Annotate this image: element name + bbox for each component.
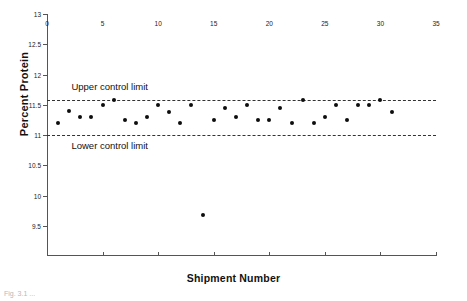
x-axis-title: Shipment Number xyxy=(0,272,467,284)
y-axis-tick xyxy=(43,196,47,197)
data-point xyxy=(345,118,349,122)
data-point xyxy=(67,109,71,113)
x-axis-tick-label: 15 xyxy=(210,20,217,27)
data-point xyxy=(156,103,160,107)
plot-area: 9.51010.51111.51212.513 05101520253035 U… xyxy=(47,14,436,256)
data-point xyxy=(301,98,305,102)
y-axis-title: Percent Protein xyxy=(18,34,30,154)
data-point xyxy=(178,121,182,125)
data-point xyxy=(367,103,371,107)
data-point xyxy=(89,115,93,119)
lower-control-limit-label: Lower control limit xyxy=(71,140,148,151)
data-point xyxy=(290,121,294,125)
data-point xyxy=(223,106,227,110)
control-chart-figure: Percent Protein 9.51010.51111.51212.513 … xyxy=(0,0,467,301)
x-axis-tick-label: 5 xyxy=(101,20,105,27)
y-axis-tick xyxy=(43,226,47,227)
y-axis-tick xyxy=(43,105,47,106)
data-point xyxy=(245,103,249,107)
x-axis-tick-label: 25 xyxy=(321,20,328,27)
data-point xyxy=(278,106,282,110)
data-point xyxy=(134,121,138,125)
data-point xyxy=(256,118,260,122)
x-axis-tick xyxy=(47,252,48,256)
data-point xyxy=(56,121,60,125)
x-axis-tick-label: 35 xyxy=(432,20,439,27)
y-axis-tick-label: 11 xyxy=(34,132,41,139)
y-axis-tick xyxy=(43,14,47,15)
lower-control-limit xyxy=(47,135,436,136)
upper-control-limit-label: Upper control limit xyxy=(71,81,148,92)
x-axis-tick xyxy=(436,252,437,256)
x-axis-tick-label: 20 xyxy=(266,20,273,27)
x-axis-tick xyxy=(158,252,159,256)
data-point xyxy=(167,110,171,114)
x-axis-tick xyxy=(380,252,381,256)
data-point xyxy=(101,103,105,107)
data-point xyxy=(78,115,82,119)
x-axis-tick-label: 0 xyxy=(45,20,49,27)
x-axis-tick xyxy=(103,252,104,256)
x-axis-tick xyxy=(214,252,215,256)
data-point xyxy=(312,121,316,125)
x-axis-tick-label: 30 xyxy=(377,20,384,27)
y-axis-tick xyxy=(43,165,47,166)
y-axis-tick-label: 13 xyxy=(34,11,41,18)
data-point xyxy=(378,98,382,102)
data-point xyxy=(189,103,193,107)
y-axis-tick-label: 9.5 xyxy=(32,222,41,229)
x-axis-tick-label: 10 xyxy=(155,20,162,27)
y-axis-tick-label: 12 xyxy=(34,71,41,78)
data-point xyxy=(356,103,360,107)
y-axis-tick-label: 11.5 xyxy=(29,101,41,108)
data-point xyxy=(234,115,238,119)
y-axis-tick-label: 10 xyxy=(34,192,41,199)
x-axis-line xyxy=(47,255,436,256)
figure-caption: Fig. 3.1 ... xyxy=(4,290,35,300)
data-point xyxy=(201,213,205,217)
data-point xyxy=(323,115,327,119)
data-point xyxy=(123,118,127,122)
data-point xyxy=(112,98,116,102)
data-point xyxy=(390,110,394,114)
data-point xyxy=(334,103,338,107)
y-axis-tick xyxy=(43,75,47,76)
y-axis-tick xyxy=(43,44,47,45)
data-point xyxy=(212,118,216,122)
x-axis-tick xyxy=(269,252,270,256)
y-axis-tick-label: 10.5 xyxy=(28,162,41,169)
y-axis-tick-label: 12.5 xyxy=(28,41,41,48)
data-point xyxy=(145,115,149,119)
data-point xyxy=(267,118,271,122)
x-axis-tick xyxy=(325,252,326,256)
